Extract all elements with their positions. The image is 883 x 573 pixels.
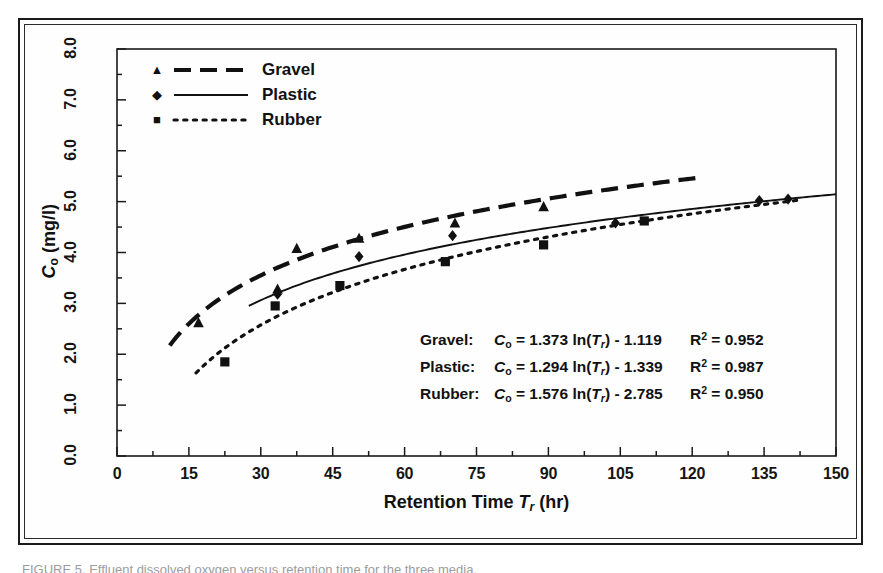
equation-lhs-variable: C bbox=[494, 331, 505, 348]
x-axis-title-units: (hr) bbox=[534, 492, 569, 512]
equation-fn-variable: T bbox=[591, 331, 600, 348]
data-point-rubber bbox=[220, 357, 229, 366]
x-tick-label: 0 bbox=[87, 465, 147, 483]
legend-label: Gravel bbox=[262, 60, 315, 80]
data-point-gravel bbox=[538, 201, 549, 211]
equation-lhs-variable: C bbox=[494, 385, 505, 402]
x-tick-label: 150 bbox=[806, 465, 866, 483]
x-tick-label: 75 bbox=[447, 465, 507, 483]
r-squared-label: R bbox=[690, 358, 701, 375]
regression-equation-block: Gravel:Co = 1.373 ln(Tr) - 1.119R2 = 0.9… bbox=[420, 330, 764, 411]
data-point-gravel bbox=[450, 217, 461, 227]
equation-row-plastic: Plastic:Co = 1.294 ln(Tr) - 1.339R2 = 0.… bbox=[420, 357, 764, 384]
r-squared-value: R2 = 0.950 bbox=[690, 384, 764, 403]
y-tick-label: 6.0 bbox=[62, 122, 80, 178]
chart-area: 0153045607590105120135150 0.01.02.03.04.… bbox=[0, 0, 883, 573]
equation-expression: Co = 1.576 ln(Tr) - 2.785 bbox=[494, 385, 690, 404]
equation-middle: = 1.576 ln( bbox=[512, 385, 592, 402]
legend-line-sample-rubber bbox=[172, 113, 250, 127]
equation-series-name: Gravel: bbox=[420, 331, 494, 349]
equation-row-gravel: Gravel:Co = 1.373 ln(Tr) - 1.119R2 = 0.9… bbox=[420, 330, 764, 357]
data-point-plastic bbox=[448, 230, 457, 241]
x-tick-label: 135 bbox=[734, 465, 794, 483]
legend-line-sample-plastic bbox=[172, 88, 250, 102]
legend-label: Rubber bbox=[262, 110, 322, 130]
legend-line-sample-gravel bbox=[172, 63, 250, 77]
r-squared-number: = 0.952 bbox=[707, 331, 763, 348]
x-tick-label: 90 bbox=[518, 465, 578, 483]
y-tick-label: 3.0 bbox=[62, 274, 80, 330]
r-squared-number: = 0.950 bbox=[707, 385, 763, 402]
diamond-icon: ◆ bbox=[146, 88, 168, 101]
equation-tail: ) - 2.785 bbox=[605, 385, 663, 402]
x-tick-label: 15 bbox=[159, 465, 219, 483]
equation-lhs-variable: C bbox=[494, 358, 505, 375]
x-tick-label: 45 bbox=[303, 465, 363, 483]
data-point-rubber bbox=[271, 301, 280, 310]
equation-fn-variable: T bbox=[591, 358, 600, 375]
x-axis-title-variable: T bbox=[518, 492, 529, 512]
r-squared-label: R bbox=[690, 385, 701, 402]
y-tick-label: 0.0 bbox=[62, 427, 80, 483]
data-point-rubber bbox=[441, 257, 450, 266]
r-squared-label: R bbox=[690, 331, 701, 348]
equation-tail: ) - 1.339 bbox=[605, 358, 663, 375]
equation-series-name: Plastic: bbox=[420, 358, 494, 376]
equation-row-rubber: Rubber:Co = 1.576 ln(Tr) - 2.785R2 = 0.9… bbox=[420, 384, 764, 411]
y-tick-label: 4.0 bbox=[62, 224, 80, 280]
x-axis-ticks bbox=[117, 447, 836, 456]
y-axis-ticks bbox=[117, 49, 126, 456]
data-point-gravel bbox=[291, 243, 302, 253]
equation-expression: Co = 1.294 ln(Tr) - 1.339 bbox=[494, 358, 690, 377]
y-axis-title-subscript: o bbox=[47, 258, 61, 265]
equation-tail: ) - 1.119 bbox=[605, 331, 662, 348]
x-axis-title: Retention Time Tr (hr) bbox=[117, 492, 836, 514]
r-squared-number: = 0.987 bbox=[707, 358, 763, 375]
equation-series-name: Rubber: bbox=[420, 385, 494, 403]
equation-middle: = 1.294 ln( bbox=[512, 358, 592, 375]
plot-svg bbox=[0, 0, 883, 573]
triangle-icon: ▲ bbox=[146, 63, 168, 76]
equation-middle: = 1.373 ln( bbox=[512, 331, 592, 348]
legend-item-rubber[interactable]: ■Rubber bbox=[146, 107, 376, 132]
x-tick-label: 30 bbox=[231, 465, 291, 483]
y-tick-label: 8.0 bbox=[62, 20, 80, 76]
data-point-plastic bbox=[355, 251, 364, 262]
y-axis-title-variable: C bbox=[39, 265, 59, 278]
y-tick-label: 2.0 bbox=[62, 325, 80, 381]
legend-item-plastic[interactable]: ◆Plastic bbox=[146, 82, 376, 107]
y-tick-label: 5.0 bbox=[62, 173, 80, 229]
equation-fn-variable: T bbox=[591, 385, 600, 402]
legend-item-gravel[interactable]: ▲Gravel bbox=[146, 57, 376, 82]
y-tick-label: 1.0 bbox=[62, 376, 80, 432]
x-axis-title-text: Retention Time bbox=[384, 492, 519, 512]
chart-legend: ▲Gravel◆Plastic■Rubber bbox=[146, 57, 376, 132]
x-tick-label: 120 bbox=[662, 465, 722, 483]
y-axis-title: Co (mg/l) bbox=[39, 131, 61, 351]
data-point-rubber bbox=[335, 281, 344, 290]
figure-caption: FIGURE 5. Effluent dissolved oxygen vers… bbox=[22, 562, 862, 573]
data-point-rubber bbox=[539, 240, 548, 249]
y-axis-title-units: (mg/l) bbox=[39, 204, 59, 258]
x-tick-label: 105 bbox=[590, 465, 650, 483]
x-tick-label: 60 bbox=[375, 465, 435, 483]
equation-expression: Co = 1.373 ln(Tr) - 1.119 bbox=[494, 331, 690, 350]
y-tick-label: 7.0 bbox=[62, 71, 80, 127]
legend-label: Plastic bbox=[262, 85, 317, 105]
r-squared-value: R2 = 0.987 bbox=[690, 357, 764, 376]
data-point-rubber bbox=[640, 216, 649, 225]
r-squared-value: R2 = 0.952 bbox=[690, 330, 764, 349]
square-icon: ■ bbox=[146, 113, 168, 126]
